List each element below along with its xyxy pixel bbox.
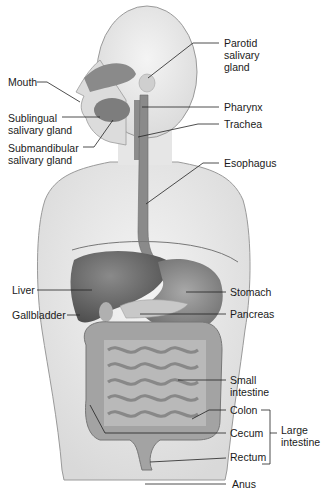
label-mouth: Mouth [8,76,37,88]
label-pharynx: Pharynx [224,101,263,113]
label-sublingual-salivary-gland: Sublingual salivary gland [8,112,72,136]
label-gallbladder: Gallbladder [12,309,66,321]
tongue [94,98,130,122]
body-illustration [0,0,326,499]
label-pancreas: Pancreas [230,308,274,320]
label-parotid-salivary-gland: Parotid salivary gland [224,37,260,73]
label-large-intestine: Large intestine [281,424,320,448]
label-small-intestine: Small intestine [230,374,269,398]
label-cecum: Cecum [230,427,263,439]
label-rectum: Rectum [230,451,266,463]
label-stomach: Stomach [230,286,271,298]
label-anus: Anus [232,478,256,490]
label-submandibular-salivary-gland: Submandibular salivary gland [8,142,79,166]
label-liver: Liver [12,284,35,296]
digestive-system-diagram: Parotid salivary gland Mouth Pharynx Sub… [0,0,326,499]
label-colon: Colon [230,404,257,416]
label-trachea: Trachea [224,118,262,130]
gallbladder [99,302,113,322]
parotid-gland [139,74,155,92]
label-esophagus: Esophagus [224,157,277,169]
